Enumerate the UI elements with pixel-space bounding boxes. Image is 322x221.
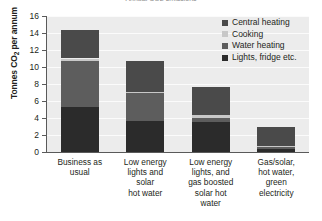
bar-segment[interactable] <box>192 118 230 122</box>
y-tick-label: 0 <box>19 148 39 157</box>
x-label-line: electricity <box>239 188 313 198</box>
legend-item[interactable]: Water heating <box>222 40 297 52</box>
x-label-line: hot water, <box>239 167 313 177</box>
y-tick-label: 16 <box>19 12 39 21</box>
x-label-line: gas boosted <box>174 177 248 187</box>
y-tick-label: 12 <box>19 46 39 55</box>
legend-swatch-icon <box>222 55 228 61</box>
bar-segment[interactable] <box>192 115 230 118</box>
legend-item[interactable]: Cooking <box>222 29 297 41</box>
y-tick-mark <box>42 50 47 51</box>
bar-segment[interactable] <box>192 122 230 152</box>
y-axis-title: Tonnes CO2 per annum <box>9 0 19 113</box>
x-label-line: lights, and <box>174 167 248 177</box>
y-tick-mark <box>42 135 47 136</box>
stacked-bar-chart: Annual CO2 emissions Tonnes CO2 per annu… <box>0 0 322 221</box>
chart-title: Annual CO2 emissions <box>0 0 322 2</box>
bar-segment[interactable] <box>126 92 164 94</box>
x-axis-line <box>46 152 309 153</box>
y-tick-mark <box>42 152 47 153</box>
legend-label: Cooking <box>232 29 263 41</box>
x-axis-label: Low energylights andsolarhot water <box>108 157 182 198</box>
y-tick-mark <box>42 101 47 102</box>
y-tick-mark <box>42 118 47 119</box>
legend-swatch-icon <box>222 31 228 37</box>
x-axis-label: Business asusual <box>43 157 117 177</box>
legend-swatch-icon <box>222 43 228 49</box>
y-tick-mark <box>42 84 47 85</box>
x-label-line: Low energy <box>108 157 182 167</box>
legend-item[interactable]: Central heating <box>222 17 297 29</box>
bar-segment[interactable] <box>61 107 99 152</box>
x-label-line: usual <box>43 167 117 177</box>
y-tick-label: 10 <box>19 63 39 72</box>
x-axis-label: Gas/solar,hot water,greenelectricity <box>239 157 313 198</box>
bar-segment[interactable] <box>61 59 99 62</box>
x-label-line: solar <box>108 177 182 187</box>
x-label-line: Low energy <box>174 157 248 167</box>
legend-item[interactable]: Lights, fridge etc. <box>222 52 297 64</box>
x-label-line: Gas/solar, <box>239 157 313 167</box>
x-label-line: solar hot <box>174 188 248 198</box>
x-label-line: hot water <box>108 188 182 198</box>
y-tick-mark <box>42 33 47 34</box>
bar-segment[interactable] <box>257 146 295 147</box>
chart-legend: Central heatingCookingWater heatingLight… <box>222 17 297 63</box>
bar-segment[interactable] <box>257 149 295 152</box>
y-tick-label: 4 <box>19 114 39 123</box>
bar-segment[interactable] <box>61 30 99 58</box>
bar-segment[interactable] <box>126 61 164 92</box>
bar-segment[interactable] <box>257 127 295 147</box>
y-tick-label: 8 <box>19 80 39 89</box>
bar-stack[interactable] <box>61 16 99 152</box>
legend-swatch-icon <box>222 20 228 26</box>
bar-segment[interactable] <box>61 61 99 107</box>
x-label-line: water <box>174 198 248 208</box>
bar-segment[interactable] <box>257 147 295 149</box>
y-tick-mark <box>42 67 47 68</box>
bar-segment[interactable] <box>126 93 164 121</box>
x-axis-label: Low energylights, andgas boostedsolar ho… <box>174 157 248 208</box>
y-tick-mark <box>42 16 47 17</box>
bar-segment[interactable] <box>126 121 164 152</box>
legend-label: Lights, fridge etc. <box>232 52 297 64</box>
legend-label: Central heating <box>232 17 290 29</box>
legend-label: Water heating <box>232 40 285 52</box>
y-tick-label: 14 <box>19 29 39 38</box>
x-label-line: green <box>239 177 313 187</box>
x-label-line: Business as <box>43 157 117 167</box>
x-label-line: lights and <box>108 167 182 177</box>
bar-segment[interactable] <box>192 87 230 115</box>
y-tick-label: 2 <box>19 131 39 140</box>
y-tick-label: 6 <box>19 97 39 106</box>
bar-stack[interactable] <box>126 16 164 152</box>
